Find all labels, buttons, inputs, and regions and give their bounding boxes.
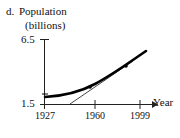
curve-point-lower-marker — [88, 85, 92, 89]
x-axis-arrowhead — [152, 101, 158, 108]
plot-area — [0, 0, 180, 138]
population-growth-figure: d. Population (billions) 6.5 1.5 Year 19… — [0, 0, 180, 138]
population-curve — [45, 51, 146, 97]
curve-point-upper-marker — [124, 64, 128, 68]
